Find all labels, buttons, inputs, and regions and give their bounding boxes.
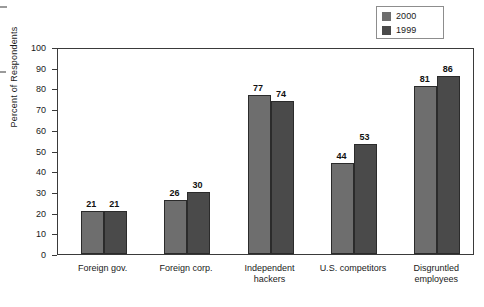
- bar-2000-1: [164, 200, 187, 254]
- y-axis-tick-mark: [52, 214, 57, 215]
- y-axis-tick-label: 30: [6, 188, 46, 198]
- y-axis-tick-mark: [52, 89, 57, 90]
- bar-value-label: 86: [428, 64, 468, 74]
- bar-value-label: 30: [178, 180, 218, 190]
- y-axis-tick-label: 100: [6, 43, 46, 53]
- y-axis-tick-label: 80: [6, 84, 46, 94]
- chart-legend: 20001999: [376, 6, 444, 39]
- y-axis-tick-label: 40: [6, 167, 46, 177]
- bar-value-label: 74: [261, 89, 301, 99]
- y-axis-tick-mark: [52, 152, 57, 153]
- bar-1999-4: [437, 76, 460, 254]
- y-axis-tick-mark: [52, 172, 57, 173]
- legend-swatch-icon: [382, 26, 391, 35]
- y-axis-tick-label: 90: [6, 64, 46, 74]
- legend-label: 1999: [396, 26, 416, 35]
- y-axis-tick-label: 10: [6, 229, 46, 239]
- legend-swatch-icon: [382, 12, 391, 21]
- legend-item-2000: 2000: [382, 10, 439, 23]
- x-axis-category-label: Disgruntledemployees: [386, 263, 484, 285]
- bar-1999-1: [187, 192, 210, 254]
- y-axis-tick-label: 50: [6, 147, 46, 157]
- y-axis-tick-mark: [52, 131, 57, 132]
- y-axis-tick-mark: [52, 48, 57, 49]
- bar-1999-2: [271, 101, 294, 254]
- bar-value-label: 81: [405, 74, 445, 84]
- bar-2000-4: [414, 86, 437, 254]
- y-axis-tick-label: 60: [6, 126, 46, 136]
- y-axis-tick-mark: [52, 193, 57, 194]
- x-axis-category-label-line: Disgruntled: [386, 263, 484, 274]
- x-axis-category-label-line: hackers: [220, 274, 320, 285]
- bar-value-label: 44: [321, 151, 361, 161]
- y-axis-tick-mark: [52, 110, 57, 111]
- legend-label: 2000: [396, 12, 416, 21]
- bar-value-label: 53: [344, 132, 384, 142]
- y-axis-tick-label: 0: [6, 250, 46, 260]
- bar-2000-3: [331, 163, 354, 254]
- y-axis-tick-mark: [52, 69, 57, 70]
- bar-2000-0: [81, 211, 104, 254]
- bar-2000-2: [248, 95, 271, 254]
- y-axis-tick-mark: [52, 255, 57, 256]
- bar-1999-0: [104, 211, 127, 254]
- y-axis-tick-label: 20: [6, 209, 46, 219]
- scan-artifact-top: [0, 6, 7, 8]
- y-axis-tick-label: 70: [6, 105, 46, 115]
- bar-value-label: 21: [94, 199, 134, 209]
- x-axis-category-label-line: employees: [386, 274, 484, 285]
- y-axis-tick-mark: [52, 234, 57, 235]
- legend-item-1999: 1999: [382, 24, 439, 37]
